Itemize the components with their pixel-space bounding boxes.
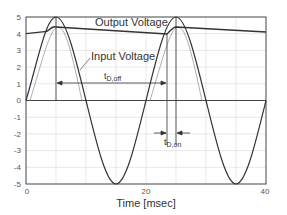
input-voltage-label: Input Voltage	[91, 50, 155, 62]
svg-text:-4: -4	[14, 163, 22, 172]
svg-text:5: 5	[17, 13, 22, 22]
svg-text:40: 40	[261, 187, 270, 196]
svg-text:2: 2	[17, 63, 22, 72]
svg-text:0: 0	[17, 96, 22, 105]
t-d-off-label: tD,off	[104, 71, 121, 82]
svg-text:0: 0	[25, 187, 30, 196]
x-axis-label: Time [msec]	[116, 197, 176, 209]
svg-text:3: 3	[17, 46, 22, 55]
input-label-leader	[80, 58, 90, 70]
svg-text:-3: -3	[14, 146, 22, 155]
output-voltage-label: Output Voltage	[95, 16, 168, 28]
svg-text:20: 20	[142, 187, 151, 196]
svg-text:1: 1	[17, 80, 22, 89]
svg-text:-2: -2	[14, 130, 22, 139]
t-d-on-arrows	[154, 17, 190, 145]
svg-text:4: 4	[17, 30, 22, 39]
voltage-chart: tD,off tD,on Output Voltage Input Voltag…	[0, 0, 287, 215]
x-axis-ticks: 0 20 40	[25, 187, 270, 196]
svg-text:-5: -5	[14, 180, 22, 189]
y-axis-ticks: 5 4 3 2 1 0 -1 -2 -3 -4 -5	[14, 13, 22, 189]
svg-text:-1: -1	[14, 113, 22, 122]
